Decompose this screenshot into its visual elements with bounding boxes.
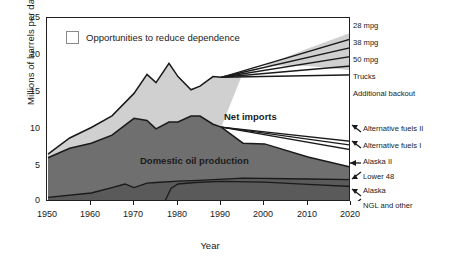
legend-label-opportunities: Opportunities to reduce dependence — [86, 32, 240, 43]
x-tick-label-1960: 1960 — [70, 210, 110, 219]
x-tick-label-2010: 2010 — [287, 210, 327, 219]
right-label-panel: 28 mpg 38 mpg 50 mpg Trucks Additional b… — [349, 17, 415, 201]
right-label-trucks: Trucks — [353, 73, 376, 81]
right-label-ngl-and-other: NGL and other — [363, 202, 413, 210]
right-label-additional-backout: Additional backout — [353, 90, 415, 98]
x-tick-mark-1970 — [133, 201, 134, 205]
y-tick-label-0: 0 — [14, 196, 40, 205]
arrowhead-lower48 — [352, 174, 358, 179]
x-axis-title: Year — [150, 240, 270, 251]
legend: Opportunities to reduce dependence — [66, 31, 240, 44]
x-tick-label-1970: 1970 — [113, 210, 153, 219]
right-label-28-mpg: 28 mpg — [353, 22, 378, 30]
y-tick-label-10: 10 — [14, 124, 40, 133]
right-label-50-mpg: 50 mpg — [353, 56, 378, 64]
x-tick-mark-2010 — [307, 201, 308, 205]
arrow-alternative-fuels-i — [352, 141, 361, 148]
arrowhead-alaska — [352, 189, 358, 194]
arrow-lower-48 — [352, 172, 361, 179]
arrow-ngl-and-other — [352, 199, 361, 201]
y-tick-label-20: 20 — [14, 50, 40, 59]
right-label-alternative-fuels-i: Alternative fuels I — [363, 142, 421, 150]
right-label-alternative-fuels-ii: Alternative fuels II — [363, 125, 423, 133]
y-tick-label-15: 15 — [14, 87, 40, 96]
y-tick-label-5: 5 — [14, 161, 40, 170]
arrowhead-alt1 — [352, 141, 358, 146]
area-label-domestic-oil-production: Domestic oil production — [140, 155, 249, 166]
x-tick-mark-1960 — [90, 201, 91, 205]
x-tick-mark-1980 — [177, 201, 178, 205]
right-label-alaska: Alaska — [363, 187, 386, 195]
area-label-net-imports: Net imports — [224, 111, 277, 122]
right-label-38-mpg: 38 mpg — [353, 39, 378, 47]
arrow-alternative-fuels-ii — [352, 125, 361, 132]
legend-swatch-opportunities — [66, 31, 79, 44]
y-tick-label-25: 25 — [14, 13, 40, 22]
x-tick-label-1980: 1980 — [157, 210, 197, 219]
x-tick-mark-2020 — [350, 201, 351, 205]
right-label-alaska-ii: Alaska II — [363, 158, 392, 166]
x-tick-label-2000: 2000 — [243, 210, 283, 219]
x-tick-label-2020: 2020 — [330, 210, 370, 219]
figure-oil-dependence-chart: Millions of barrels per day 25 20 15 10 … — [0, 0, 454, 262]
x-tick-label-1950: 1950 — [27, 210, 67, 219]
x-tick-mark-2000 — [263, 201, 264, 205]
arrow-alaska — [352, 189, 361, 196]
arrowhead-alaska2 — [350, 160, 356, 166]
x-tick-label-1990: 1990 — [200, 210, 240, 219]
arrowhead-alt2 — [352, 125, 358, 130]
right-label-lower-48: Lower 48 — [363, 173, 394, 181]
x-tick-mark-1990 — [220, 201, 221, 205]
